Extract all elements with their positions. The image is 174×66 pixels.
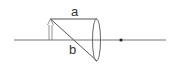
focal-point xyxy=(119,38,122,41)
label-ray-a: a xyxy=(71,4,79,19)
ray-diagram: a b xyxy=(0,0,174,66)
object-arrow xyxy=(48,19,54,40)
label-ray-b: b xyxy=(69,42,76,57)
